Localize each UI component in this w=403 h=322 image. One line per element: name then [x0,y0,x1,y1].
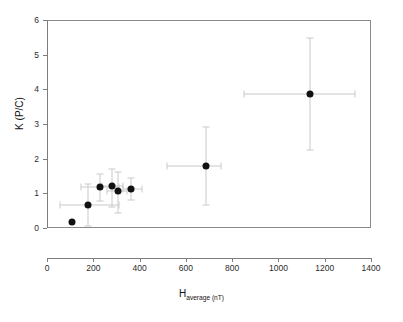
x-tick [186,258,187,262]
x-tick-label: 400 [132,263,146,273]
data-point [306,90,313,97]
x-axis-title: Haverage (nT) [0,288,403,301]
plot-frame [47,20,371,228]
y-tick-label: 3 [23,119,39,129]
x-axis-title-subscript: average (nT) [186,294,224,301]
error-bar-cap [109,169,116,170]
y-tick-label: 4 [23,84,39,94]
error-bar-cap [84,225,91,226]
error-bar-cap [221,162,222,169]
y-tick [43,20,47,21]
y-tick [43,55,47,56]
x-tick [140,258,141,262]
x-tick [371,258,372,262]
y-tick-label: 1 [23,188,39,198]
y-tick [43,228,47,229]
y-tick-label: 2 [23,154,39,164]
error-bar-cap [115,171,122,172]
y-tick-label: 5 [23,50,39,60]
x-tick [278,258,279,262]
x-tick-label: 1200 [315,263,334,273]
error-bar-cap [115,213,122,214]
y-tick [43,193,47,194]
x-axis-line [47,258,371,259]
error-bar-cap [166,162,167,169]
x-tick-label: 600 [179,263,193,273]
data-point [69,218,76,225]
scatter-plot-figure: 0200400600800100012001400 0123456 Havera… [0,0,403,322]
y-tick [43,124,47,125]
y-axis-title: K (P/C) [14,69,25,159]
error-bar-cap [96,174,103,175]
x-tick-label: 1000 [269,263,288,273]
error-bar-cap [202,204,209,205]
data-point [202,162,209,169]
x-tick-label: 800 [225,263,239,273]
data-point [96,184,103,191]
error-bar-cap [118,202,119,209]
error-bar-cap [306,38,313,39]
error-bar-horizontal [167,165,221,166]
y-tick-label: 6 [23,15,39,25]
data-point [115,187,122,194]
error-bar-cap [202,127,209,128]
x-tick [232,258,233,262]
error-bar-cap [81,184,82,191]
error-bar-cap [106,187,107,194]
x-tick [47,258,48,262]
error-bar-cap [128,199,135,200]
x-tick-label: 200 [86,263,100,273]
error-bar-cap [109,206,116,207]
error-bar-cap [84,183,91,184]
y-tick [43,89,47,90]
error-bar-cap [123,185,124,192]
x-tick [93,258,94,262]
y-axis-line [47,20,48,228]
data-point [84,202,91,209]
data-point [128,185,135,192]
error-bar-cap [128,177,135,178]
error-bar-cap [243,90,244,97]
error-bar-horizontal [244,93,355,94]
error-bar-cap [96,200,103,201]
error-bar-cap [354,90,355,97]
y-tick [43,159,47,160]
x-tick [325,258,326,262]
x-tick-label: 1400 [362,263,381,273]
error-bar-cap [59,202,60,209]
error-bar-cap [306,150,313,151]
x-tick-label: 0 [45,263,50,273]
y-tick-label: 0 [23,223,39,233]
error-bar-cap [142,185,143,192]
